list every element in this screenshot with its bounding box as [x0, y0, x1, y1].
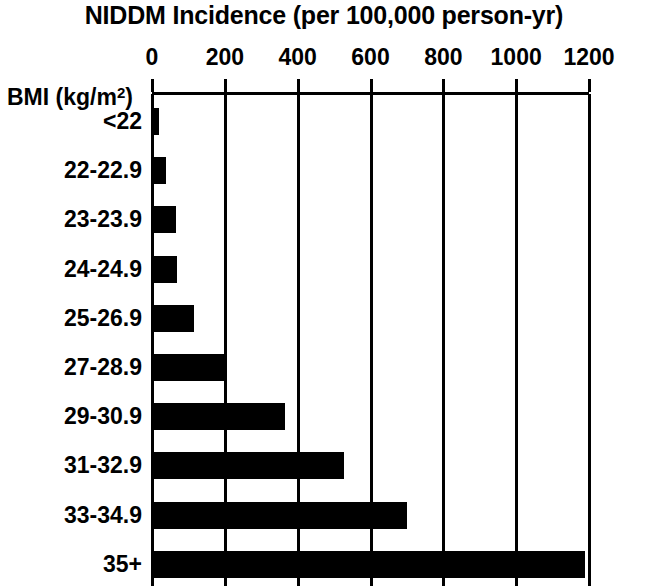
x-tick-label-800: 800 [424, 44, 462, 71]
gridline-1200 [588, 94, 591, 586]
x-tick-label-200: 200 [206, 44, 244, 71]
gridline-1000 [515, 94, 518, 586]
y-axis-label: 35+ [0, 551, 142, 578]
x-tick-mark-1200 [588, 79, 591, 92]
bar [152, 305, 194, 332]
bar [152, 403, 285, 430]
gridline-800 [442, 94, 445, 586]
y-axis-label: 31-32.9 [0, 452, 142, 479]
y-axis-label: 27-28.9 [0, 354, 142, 381]
x-tick-label-1200: 1200 [563, 44, 614, 71]
y-axis-label: 25-26.9 [0, 305, 142, 332]
x-tick-label-400: 400 [278, 44, 316, 71]
y-axis-category-labels: <2222-22.923-23.924-24.925-26.927-28.929… [0, 92, 142, 586]
y-axis-label: 29-30.9 [0, 403, 142, 430]
x-tick-mark-1000 [515, 79, 518, 92]
bar [152, 206, 176, 233]
gridline-0 [151, 94, 154, 586]
y-axis-label: 33-34.9 [0, 502, 142, 529]
x-tick-label-1000: 1000 [491, 44, 542, 71]
y-axis-label: 23-23.9 [0, 206, 142, 233]
gridline-200 [224, 94, 227, 586]
gridline-400 [297, 94, 300, 586]
y-axis-label: 22-22.9 [0, 157, 142, 184]
x-tick-mark-200 [224, 79, 227, 92]
chart-container: NIDDM Incidence (per 100,000 person-yr) … [0, 0, 648, 586]
x-tick-label-600: 600 [351, 44, 389, 71]
x-tick-mark-0 [151, 79, 154, 92]
y-axis-label: <22 [0, 108, 142, 135]
x-tick-mark-800 [442, 79, 445, 92]
bar [152, 157, 166, 184]
gridline-600 [370, 94, 373, 586]
x-tick-mark-600 [370, 79, 373, 92]
plot-area: 020040060080010001200 [152, 92, 589, 586]
chart-title: NIDDM Incidence (per 100,000 person-yr) [0, 1, 648, 30]
x-tick-mark-400 [297, 79, 300, 92]
x-tick-label-0: 0 [146, 44, 159, 71]
y-axis-label: 24-24.9 [0, 256, 142, 283]
bar [152, 256, 177, 283]
bar [152, 354, 226, 381]
bar [152, 452, 344, 479]
